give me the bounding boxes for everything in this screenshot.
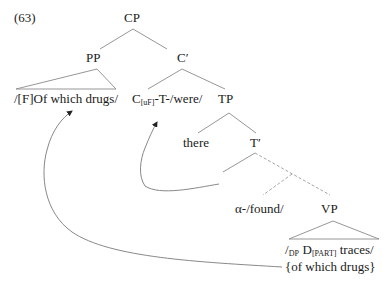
edge-cbar-c xyxy=(148,69,182,89)
edge-tbar-vp-dashed xyxy=(255,153,330,195)
c-head-main: C xyxy=(132,91,141,106)
edge-cbar-tp xyxy=(182,69,225,89)
vp-part-feature: [PART] xyxy=(312,249,337,258)
node-vp-content-line2: {of which drugs} xyxy=(285,260,375,274)
movement-arrow-to-pp xyxy=(44,111,282,267)
edge-mid-found-dashed xyxy=(263,174,292,195)
example-number: (63) xyxy=(14,11,36,25)
node-t-bar: T′ xyxy=(250,136,261,150)
edge-cp-cbar xyxy=(133,29,167,49)
node-tp: TP xyxy=(218,92,233,106)
node-pp: PP xyxy=(86,51,100,65)
vp-traces: traces/ xyxy=(336,242,373,257)
edge-tp-there xyxy=(198,113,229,133)
c-head-feature: [uF] xyxy=(141,98,155,107)
edge-tp-tbar xyxy=(229,113,256,133)
pp-triangle xyxy=(16,69,116,89)
movement-arrow-to-c xyxy=(140,122,219,191)
node-c-bar: C′ xyxy=(177,51,189,65)
node-cp: CP xyxy=(124,11,140,25)
node-alpha-found: α-/found/ xyxy=(235,202,284,216)
node-there: there xyxy=(183,136,209,150)
edge-tbar-gap xyxy=(223,153,255,172)
vp-triangle xyxy=(289,221,379,239)
node-c-head: C[uF]-T-/were/ xyxy=(132,92,202,110)
node-vp: VP xyxy=(321,202,338,216)
edge-cp-pp xyxy=(100,29,133,49)
vp-d: D xyxy=(299,242,312,257)
node-pp-content: /[F]Of which drugs/ xyxy=(14,92,118,106)
c-head-rest: -T-/were/ xyxy=(154,91,202,106)
vp-dp-label: DP xyxy=(289,249,300,258)
